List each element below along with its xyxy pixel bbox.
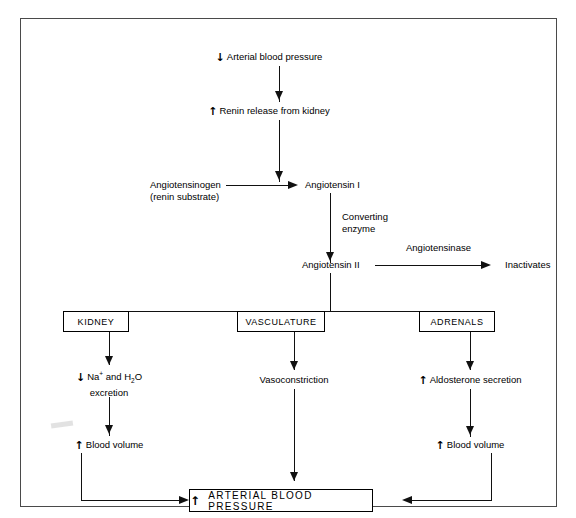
arrowhead-bp-to-renin <box>275 91 283 100</box>
na-symbol: Na <box>87 371 99 382</box>
arrowhead-left-to-outcome <box>179 496 189 504</box>
arrowhead-angiotensinogen-to-ang1 <box>288 181 298 189</box>
node-label: Angiotensinogen <box>150 179 221 191</box>
arrowhead-right-to-outcome <box>402 496 412 504</box>
box-kidney[interactable]: KIDNEY <box>63 311 129 332</box>
box-arterial-blood-pressure[interactable]: ↑ARTERIAL BLOOD PRESSURE <box>189 489 373 512</box>
connector-bloodvol-left-right <box>81 500 186 501</box>
node-label: Blood volume <box>447 439 505 450</box>
box-label: ADRENALS <box>431 317 484 327</box>
box-label: VASCULATURE <box>245 317 316 327</box>
arrowhead-vasoconstriction-to-outcome <box>290 472 298 481</box>
node-na-h2o-excretion: ↓Na+ and H2O excretion <box>76 368 142 399</box>
node-arterial-bp-drop: ↓Arterial blood pressure <box>216 51 323 64</box>
up-arrow-icon: ↑ <box>75 440 84 452</box>
arrowhead-renin-to-ang1 <box>275 171 283 180</box>
node-blood-volume-left: ↑Blood volume <box>75 439 144 452</box>
conjunction: and H <box>103 371 131 382</box>
up-arrow-icon: ↑ <box>418 375 427 387</box>
arrowhead-aldosterone-to-bloodvol-right <box>466 426 474 435</box>
converting-enzyme-line1: Converting <box>342 211 388 223</box>
node-aldosterone-secretion: ↑Aldosterone secretion <box>418 374 521 387</box>
na-h2o-line1: ↓Na+ and H2O <box>76 368 142 387</box>
node-angiotensin-ii: Angiotensin II <box>302 259 360 271</box>
connector-ang2-to-bus <box>330 273 331 311</box>
box-label: ARTERIAL BLOOD PRESSURE <box>208 490 372 512</box>
up-arrow-icon: ↑ <box>436 440 445 452</box>
arrowhead-na-to-bloodvol-left <box>105 425 113 434</box>
connector-vasoconstriction-to-outcome <box>294 389 295 481</box>
paper-artifact <box>51 420 73 428</box>
diagram-frame: ↓Arterial blood pressure ↑Renin release … <box>20 18 557 507</box>
up-arrow-icon: ↑ <box>190 494 201 508</box>
up-arrow-icon: ↑ <box>208 106 217 118</box>
box-adrenals[interactable]: ADRENALS <box>419 311 495 332</box>
node-converting-enzyme: Converting enzyme <box>342 211 388 235</box>
node-inactivates: Inactivates <box>505 259 550 271</box>
node-label: Aldosterone secretion <box>430 374 522 385</box>
connector-angiotensinogen-to-ang1 <box>226 185 294 186</box>
node-vasoconstriction: Vasoconstriction <box>260 374 329 386</box>
box-label: KIDNEY <box>78 317 115 327</box>
connector-ang2-to-inactivates <box>375 265 487 266</box>
diagram-page: ↓Arterial blood pressure ↑Renin release … <box>0 0 576 518</box>
down-arrow-icon: ↓ <box>76 372 85 384</box>
connector-bloodvol-right-down <box>491 453 492 500</box>
node-sublabel: (renin substrate) <box>150 191 221 203</box>
node-angiotensin-i: Angiotensin I <box>305 179 360 191</box>
arrowhead-ang2-to-inactivates <box>481 261 491 269</box>
node-angiotensinase: Angiotensinase <box>406 242 471 254</box>
arrowhead-kidney-to-na <box>105 356 113 365</box>
node-label: Renin release from kidney <box>219 105 329 116</box>
node-angiotensinogen: Angiotensinogen (renin substrate) <box>150 179 221 203</box>
connector-bloodvol-left-down <box>81 453 82 500</box>
o-symbol: O <box>135 371 142 382</box>
converting-enzyme-line2: enzyme <box>342 223 388 235</box>
arrowhead-adrenals-to-aldosterone <box>466 361 474 370</box>
box-vasculature[interactable]: VASCULATURE <box>237 311 325 332</box>
connector-bloodvol-right-left <box>411 500 492 501</box>
node-label: Arterial blood pressure <box>227 51 323 62</box>
node-renin-release: ↑Renin release from kidney <box>208 105 330 118</box>
node-blood-volume-right: ↑Blood volume <box>436 439 505 452</box>
node-label: Blood volume <box>86 439 144 450</box>
down-arrow-icon: ↓ <box>216 52 225 64</box>
arrowhead-vasculature-to-vasoconstriction <box>290 361 298 370</box>
